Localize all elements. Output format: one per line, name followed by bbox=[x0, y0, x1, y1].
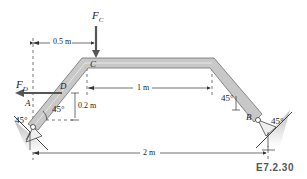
angle-b-member: 45° bbox=[221, 94, 234, 103]
angle-a-member: 45° bbox=[52, 105, 65, 114]
force-fc-label: FC bbox=[92, 10, 103, 24]
point-a-label: A bbox=[25, 99, 31, 108]
force-fd-label: FD bbox=[16, 79, 28, 93]
point-d-label: D bbox=[60, 82, 67, 91]
point-c-label: C bbox=[90, 60, 96, 69]
angle-b-support: 45° bbox=[271, 117, 284, 126]
figure-id: E7.2.30 bbox=[256, 162, 294, 173]
dim-2m: 2 m bbox=[143, 149, 155, 157]
dim-1m: 1 m bbox=[137, 84, 149, 92]
point-b-label: B bbox=[246, 113, 252, 122]
force-fc-arrow bbox=[92, 26, 100, 58]
dim-0-5m: 0.5 m bbox=[53, 38, 71, 46]
angle-a-support: 45° bbox=[15, 116, 28, 125]
dim-0-2m: 0.2 m bbox=[78, 102, 96, 110]
